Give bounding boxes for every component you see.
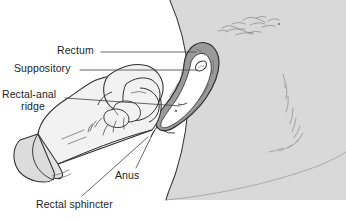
label-rectal-sphincter: Rectal sphincter: [36, 198, 113, 210]
label-rectum: Rectum: [57, 44, 94, 56]
label-suppository: Suppository: [14, 62, 71, 74]
illustration-figure: Rectum Suppository Rectal-anal ridge Anu…: [0, 0, 346, 222]
label-rectal-anal-ridge-line2: ridge: [2, 100, 64, 112]
leader-anus: [136, 131, 154, 168]
label-rectal-anal-ridge-line1: Rectal-anal: [2, 88, 56, 100]
label-anus: Anus: [115, 169, 139, 181]
